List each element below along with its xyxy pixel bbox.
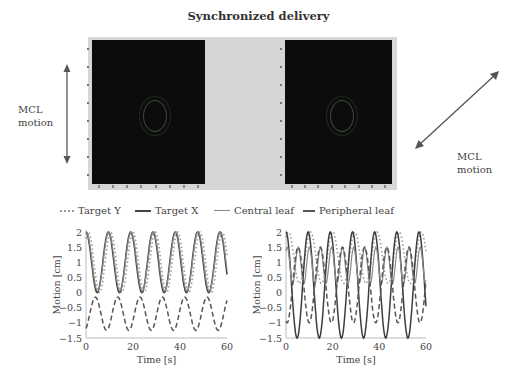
y-tick-label: 0 bbox=[76, 287, 82, 298]
y-tick-label: 0.5 bbox=[267, 272, 282, 283]
y-tick-label: −1.5 bbox=[259, 333, 282, 344]
y-tick-label: 2 bbox=[76, 227, 82, 238]
x-tick-label: 20 bbox=[127, 341, 139, 352]
y-tick-label: 0 bbox=[276, 287, 282, 298]
y-tick-label: −0.5 bbox=[259, 302, 282, 313]
y-tick-label: −0.5 bbox=[59, 302, 82, 313]
x-tick-label: 60 bbox=[221, 341, 233, 352]
x-tick-label: 40 bbox=[174, 341, 186, 352]
y-tick-label: −1 bbox=[68, 317, 82, 328]
y-tick-label: 1.5 bbox=[67, 242, 82, 253]
y-axis-label: Motion [cm] bbox=[51, 256, 62, 315]
x-tick-label: 60 bbox=[420, 341, 432, 352]
x-tick-label: 20 bbox=[327, 341, 339, 352]
y-tick-label: 0.5 bbox=[67, 272, 82, 283]
series-central-leaf bbox=[86, 232, 227, 291]
y-tick-label: 1 bbox=[276, 257, 282, 268]
y-tick-label: 1 bbox=[76, 257, 82, 268]
y-tick-label: −1.5 bbox=[59, 333, 82, 344]
x-tick-label: 0 bbox=[83, 341, 89, 352]
chart-left: 21.510.50−0.5−1−1.50204060Time [s]Motion… bbox=[51, 227, 233, 366]
chart-right: 21.510.50−0.5−1−1.50204060Time [s]Motion… bbox=[251, 227, 432, 366]
x-tick-label: 40 bbox=[373, 341, 385, 352]
x-tick-label: 0 bbox=[283, 341, 289, 352]
motion-charts: 21.510.50−0.5−1−1.50204060Time [s]Motion… bbox=[0, 0, 517, 383]
series-peripheral-leaf bbox=[86, 297, 227, 330]
y-axis-label: Motion [cm] bbox=[251, 256, 262, 315]
y-tick-label: 2 bbox=[276, 227, 282, 238]
y-tick-label: −1 bbox=[268, 317, 282, 328]
series-target-x bbox=[286, 232, 426, 338]
x-axis-label: Time [s] bbox=[336, 354, 375, 365]
y-tick-label: 1.5 bbox=[267, 242, 282, 253]
x-axis-label: Time [s] bbox=[137, 354, 176, 365]
